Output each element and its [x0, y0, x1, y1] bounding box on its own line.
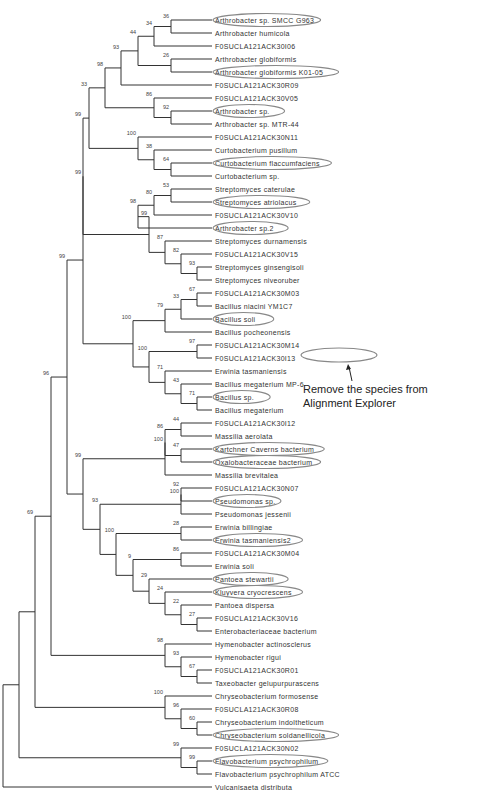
bootstrap-value: 98 [97, 61, 103, 67]
taxon-label: Pantoea stewartii [215, 576, 274, 583]
bootstrap-value: 99 [189, 754, 195, 760]
bootstrap-value: 92 [163, 104, 169, 110]
bootstrap-value: 99 [173, 741, 179, 747]
taxon-label: Vulcanisaeta distributa [215, 784, 292, 791]
taxon-label: F0SUCLA121ACK30R01 [215, 667, 299, 674]
taxon-label: F0SUCLA121ACK30V15 [215, 251, 298, 258]
taxon-label: Pseudomonas jessenii [215, 511, 291, 519]
taxon-label: Arthrobacter humicola [215, 30, 290, 37]
taxon-label: F0SUCLA121ACK30N02 [215, 745, 299, 752]
bootstrap-value: 99 [75, 169, 81, 175]
bootstrap-value: 99 [59, 253, 65, 259]
bootstrap-value: 26 [163, 52, 169, 58]
taxon-label: F0SUCLA121ACK30N07 [215, 485, 299, 492]
taxon-label: Bacillus sp. [215, 394, 254, 402]
bootstrap-value: 86 [157, 423, 163, 429]
tree-branches [3, 20, 212, 787]
bootstrap-value: 29 [141, 572, 147, 578]
taxon-label: F0SUCLA121ACK30I12 [215, 420, 296, 427]
taxon-label: F0SUCLA121ACK30R09 [215, 82, 299, 89]
bootstrap-value: 33 [173, 293, 179, 299]
bootstrap-value: 92 [173, 481, 179, 487]
bootstrap-value: 47 [173, 442, 179, 448]
taxon-label: Hymenobacter rigui [215, 654, 281, 662]
taxon-label: Bacillus niacini YM1C7 [215, 303, 293, 310]
bootstrap-value: 100 [105, 527, 114, 533]
taxon-label: Enterobacteriaceae bacterium [215, 628, 317, 635]
bootstrap-value: 99 [75, 452, 81, 458]
bootstrap-value: 22 [173, 598, 179, 604]
taxon-label: Hymenobacter actinosclerus [215, 641, 311, 649]
bootstrap-value: 9 [128, 553, 131, 559]
taxon-label: F0SUCLA121ACK30V05 [215, 95, 298, 102]
bootstrap-value: 34 [146, 20, 152, 26]
taxon-label: Arthrobacter sp. SMCC G963 [215, 17, 314, 25]
taxon-label: Pseudomonas sp. [215, 498, 276, 506]
bootstrap-value: 100 [170, 488, 179, 494]
bootstrap-value: 93 [92, 497, 98, 503]
taxon-label: F0SUCLA121ACK30M14 [215, 342, 299, 349]
bootstrap-value: 100 [138, 345, 147, 351]
bootstrap-value: 28 [173, 520, 179, 526]
bootstrap-value: 67 [189, 286, 195, 292]
taxon-label: Bacillus pocheonensis [215, 329, 291, 337]
taxon-label: F0SUCLA121ACK30V16 [215, 615, 298, 622]
taxon-label: Erwinia tasmaniensis2 [215, 537, 291, 544]
taxon-label: F0SUCLA121ACK30R08 [215, 706, 299, 713]
taxon-label: Arthrobacter globiformis [215, 56, 297, 64]
bootstrap-value: 86 [146, 91, 152, 97]
bootstrap-value: 71 [189, 390, 195, 396]
taxon-label: Flavobacterium psychrophilum [215, 758, 318, 766]
taxon-label: Arthrobacter sp. [215, 108, 270, 116]
bootstrap-value: 43 [173, 377, 179, 383]
taxon-label: Chryseobacterium formosense [215, 693, 318, 701]
bootstrap-value: 96 [173, 702, 179, 708]
bootstrap-value: 96 [43, 370, 49, 376]
bootstrap-value: 53 [163, 182, 169, 188]
taxon-label: F0SUCLA121ACK30N11 [215, 134, 298, 141]
taxon-label: F0SUCLA121ACK30M04 [215, 550, 299, 557]
taxon-label: Pantoea dispersa [215, 602, 274, 610]
arrowhead-icon [346, 364, 351, 370]
bootstrap-value: 100 [122, 314, 131, 320]
bootstrap-value: 93 [173, 650, 179, 656]
bootstrap-value: 100 [154, 689, 163, 695]
taxon-label: Curtobacterium sp. [215, 173, 280, 181]
taxon-label: Erwinia billingiae [215, 524, 273, 532]
taxon-label: Kartchner Caverns bacterium [215, 446, 314, 453]
taxon-label: Taxeobacter gelupurpurascens [215, 680, 319, 688]
bootstrap-value: 93 [113, 44, 119, 50]
bootstrap-value: 100 [127, 130, 136, 136]
taxon-label: Arthrobacter globiformis K01-05 [215, 69, 323, 77]
taxon-label: Massilia brevitalea [215, 472, 278, 479]
bootstrap-values: 3634264493928698643810033538098938287999… [27, 13, 195, 760]
taxon-label: Bacillus megaterium [215, 407, 284, 415]
bootstrap-value: 80 [146, 189, 152, 195]
bootstrap-value: 87 [157, 234, 163, 240]
taxon-label: Massilia aerolata [215, 433, 273, 440]
taxon-label: Bacillus megaterium MP-6 [215, 381, 304, 389]
bootstrap-value: 38 [146, 143, 152, 149]
taxon-label: Chryseobacterium indoltheticum [215, 719, 324, 727]
taxon-label: F0SUCLA121ACK30V10 [215, 212, 298, 219]
taxon-label: F0SUCLA121ACK30I06 [215, 43, 296, 50]
taxon-label: Arthrobacter sp.2 [215, 225, 274, 233]
taxon-label: F0SUCLA121ACK30I13 [215, 355, 296, 362]
bootstrap-value: 82 [173, 247, 179, 253]
taxon-label: Streptomyces niveoruber [215, 277, 300, 285]
bootstrap-value: 67 [189, 663, 195, 669]
taxon-label: Bacillus soli [215, 316, 256, 323]
bootstrap-value: 24 [157, 585, 163, 591]
annotation-note: Remove the species from Alignment Explor… [303, 382, 428, 410]
taxon-label: Streptomyces caterulae [215, 186, 295, 194]
taxon-label: Curtobacterium flaccumfaciens [215, 160, 320, 167]
taxon-label: Streptomyces atriolacus [215, 199, 297, 207]
taxon-label: Kluyvera cryocrescens [215, 589, 292, 597]
bootstrap-value: 33 [81, 81, 87, 87]
bootstrap-value: 98 [130, 198, 136, 204]
taxon-label: Chryseobacterium soldanellicola [215, 732, 325, 740]
bootstrap-value: 60 [189, 715, 195, 721]
taxon-label: Arthrobacter sp. MTR-44 [215, 121, 299, 129]
taxon-label: Oxalobacteraceae bacterium [215, 459, 312, 466]
bootstrap-value: 36 [163, 13, 169, 19]
